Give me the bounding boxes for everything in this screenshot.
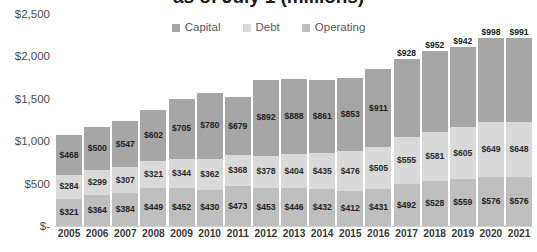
bar-segment-operating[interactable]: $473 bbox=[225, 186, 251, 226]
bar-segment-operating[interactable]: $446 bbox=[281, 188, 307, 226]
bar-segment-capital[interactable]: $861 bbox=[309, 80, 335, 153]
bar-value-label: $384 bbox=[116, 205, 135, 214]
bar-segment-debt[interactable]: $476 bbox=[337, 151, 363, 191]
bar-value-label: $344 bbox=[172, 169, 191, 178]
bar-segment-debt[interactable]: $362 bbox=[197, 159, 223, 190]
bar-value-label: $942 bbox=[453, 37, 472, 46]
bar-value-label: $911 bbox=[369, 104, 388, 113]
bar-value-label: $928 bbox=[397, 49, 416, 58]
bar-segment-capital[interactable]: $547 bbox=[112, 121, 138, 167]
bar-segment-debt[interactable]: $378 bbox=[253, 156, 279, 188]
bar-segment-capital[interactable]: $991 bbox=[506, 38, 532, 122]
bar-column[interactable]: $911$505$431 bbox=[365, 14, 391, 226]
bar-column[interactable]: $928$555$492 bbox=[394, 14, 420, 226]
bar-column[interactable]: $602$321$449 bbox=[140, 14, 166, 226]
bar-segment-operating[interactable]: $321 bbox=[56, 199, 82, 226]
bar-segment-operating[interactable]: $559 bbox=[450, 179, 476, 226]
bar-segment-debt[interactable]: $404 bbox=[281, 154, 307, 188]
y-axis-tick-label: $500 bbox=[0, 178, 50, 190]
bar-segment-debt[interactable]: $284 bbox=[56, 175, 82, 199]
bar-column[interactable]: $780$362$430 bbox=[197, 14, 223, 226]
x-axis-tick-label: 2016 bbox=[364, 228, 392, 248]
bar-segment-capital[interactable]: $468 bbox=[56, 135, 82, 175]
bar-segment-operating[interactable]: $576 bbox=[478, 177, 504, 226]
bar-column[interactable]: $998$649$576 bbox=[478, 14, 504, 226]
bar-segment-operating[interactable]: $384 bbox=[112, 193, 138, 226]
bar-segment-debt[interactable]: $307 bbox=[112, 167, 138, 193]
bar-value-label: $446 bbox=[285, 203, 304, 212]
bar-segment-operating[interactable]: $452 bbox=[169, 188, 195, 226]
bar-column[interactable]: $952$581$528 bbox=[422, 14, 448, 226]
bar-segment-capital[interactable]: $928 bbox=[394, 59, 420, 138]
bar-value-label: $378 bbox=[256, 167, 275, 176]
bar-value-label: $473 bbox=[228, 202, 247, 211]
bar-segment-debt[interactable]: $321 bbox=[140, 161, 166, 188]
bar-value-label: $435 bbox=[313, 167, 332, 176]
bar-segment-capital[interactable]: $892 bbox=[253, 80, 279, 156]
bar-value-label: $853 bbox=[341, 110, 360, 119]
x-axis-tick-label: 2021 bbox=[505, 228, 533, 248]
bar-segment-debt[interactable]: $368 bbox=[225, 155, 251, 186]
x-axis-tick-label: 2009 bbox=[168, 228, 196, 248]
bar-value-label: $299 bbox=[88, 178, 107, 187]
bar-column[interactable]: $892$378$453 bbox=[253, 14, 279, 226]
bar-column[interactable]: $861$435$432 bbox=[309, 14, 335, 226]
bar-segment-operating[interactable]: $364 bbox=[84, 195, 110, 226]
bar-segment-capital[interactable]: $679 bbox=[225, 97, 251, 155]
bar-segment-capital[interactable]: $942 bbox=[450, 47, 476, 127]
bar-segment-debt[interactable]: $435 bbox=[309, 153, 335, 190]
bar-column[interactable]: $705$344$452 bbox=[169, 14, 195, 226]
bar-column[interactable]: $500$299$364 bbox=[84, 14, 110, 226]
bar-segment-operating[interactable]: $528 bbox=[422, 181, 448, 226]
bar-segment-debt[interactable]: $555 bbox=[394, 137, 420, 184]
bar-segment-debt[interactable]: $649 bbox=[478, 122, 504, 177]
bar-column[interactable]: $853$476$412 bbox=[337, 14, 363, 226]
bar-value-label: $547 bbox=[116, 140, 135, 149]
bar-segment-capital[interactable]: $780 bbox=[197, 93, 223, 159]
bar-segment-capital[interactable]: $952 bbox=[422, 51, 448, 132]
bar-segment-operating[interactable]: $576 bbox=[506, 177, 532, 226]
bar-value-label: $605 bbox=[453, 149, 472, 158]
bar-column[interactable]: $942$605$559 bbox=[450, 14, 476, 226]
bar-column[interactable]: $888$404$446 bbox=[281, 14, 307, 226]
bar-segment-capital[interactable]: $998 bbox=[478, 38, 504, 123]
bar-value-label: $321 bbox=[60, 208, 79, 217]
x-axis-tick-label: 2013 bbox=[280, 228, 308, 248]
bar-column[interactable]: $991$648$576 bbox=[506, 14, 532, 226]
bar-segment-operating[interactable]: $412 bbox=[337, 191, 363, 226]
bar-value-label: $364 bbox=[88, 206, 107, 215]
bar-segment-capital[interactable]: $500 bbox=[84, 127, 110, 169]
bar-segment-operating[interactable]: $453 bbox=[253, 188, 279, 226]
bar-segment-capital[interactable]: $705 bbox=[169, 99, 195, 159]
bar-segment-capital[interactable]: $602 bbox=[140, 110, 166, 161]
bar-value-label: $892 bbox=[256, 113, 275, 122]
x-axis-tick-label: 2011 bbox=[224, 228, 252, 248]
bar-value-label: $307 bbox=[116, 176, 135, 185]
x-axis-tick-label: 2020 bbox=[477, 228, 505, 248]
bar-column[interactable]: $679$368$473 bbox=[225, 14, 251, 226]
bar-column[interactable]: $547$307$384 bbox=[112, 14, 138, 226]
bar-segment-capital[interactable]: $888 bbox=[281, 79, 307, 154]
bar-segment-operating[interactable]: $432 bbox=[309, 189, 335, 226]
bar-segment-debt[interactable]: $344 bbox=[169, 159, 195, 188]
y-axis-tick-label: $1,500 bbox=[0, 93, 50, 105]
bar-segment-debt[interactable]: $505 bbox=[365, 147, 391, 190]
bar-column[interactable]: $468$284$321 bbox=[56, 14, 82, 226]
bar-value-label: $468 bbox=[60, 151, 79, 160]
bar-segment-debt[interactable]: $581 bbox=[422, 132, 448, 181]
x-axis: 2005200620072008200920102011201220132014… bbox=[55, 228, 533, 248]
bar-segment-operating[interactable]: $492 bbox=[394, 184, 420, 226]
bar-segment-operating[interactable]: $430 bbox=[197, 190, 223, 226]
bar-segment-capital[interactable]: $911 bbox=[365, 69, 391, 146]
x-axis-tick-label: 2006 bbox=[83, 228, 111, 248]
bar-segment-operating[interactable]: $449 bbox=[140, 188, 166, 226]
bar-segment-operating[interactable]: $431 bbox=[365, 189, 391, 226]
bar-value-label: $576 bbox=[510, 197, 529, 206]
bar-value-label: $602 bbox=[144, 131, 163, 140]
bar-segment-debt[interactable]: $648 bbox=[506, 122, 532, 177]
bar-segment-capital[interactable]: $853 bbox=[337, 78, 363, 150]
bar-value-label: $780 bbox=[200, 121, 219, 130]
bar-segment-debt[interactable]: $299 bbox=[84, 170, 110, 195]
bar-segment-debt[interactable]: $605 bbox=[450, 127, 476, 178]
x-axis-tick-label: 2010 bbox=[196, 228, 224, 248]
